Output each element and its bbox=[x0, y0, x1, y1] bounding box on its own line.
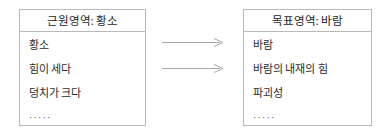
mapping-arrow-1 bbox=[162, 37, 224, 48]
list-item: 바람 bbox=[253, 39, 371, 52]
list-item: 파괴성 bbox=[253, 87, 371, 100]
source-domain-box: 근원영역: 황소 황소 힘이 세다 덩치가 크다 ····· bbox=[19, 9, 146, 126]
list-item: 힘이 세다 bbox=[29, 63, 145, 76]
arrow-right-icon bbox=[162, 37, 224, 48]
source-domain-list: 황소 힘이 세다 덩치가 크다 ····· bbox=[20, 32, 145, 124]
diagram-canvas: 근원영역: 황소 황소 힘이 세다 덩치가 크다 ····· 목표영역: 바람 … bbox=[0, 0, 389, 133]
list-item: 바람의 내재의 힘 bbox=[253, 63, 371, 76]
list-item: 덩치가 크다 bbox=[29, 87, 145, 100]
list-item: 황소 bbox=[29, 39, 145, 52]
target-domain-box: 목표영역: 바람 바람 바람의 내재의 힘 파괴성 ····· bbox=[243, 9, 372, 126]
list-item-ellipsis: ····· bbox=[253, 111, 371, 124]
arrow-right-icon bbox=[162, 63, 224, 74]
target-domain-list: 바람 바람의 내재의 힘 파괴성 ····· bbox=[244, 32, 371, 124]
mapping-arrow-2 bbox=[162, 63, 224, 74]
target-domain-header: 목표영역: 바람 bbox=[244, 10, 371, 32]
source-domain-header: 근원영역: 황소 bbox=[20, 10, 145, 32]
list-item-ellipsis: ····· bbox=[29, 111, 145, 124]
